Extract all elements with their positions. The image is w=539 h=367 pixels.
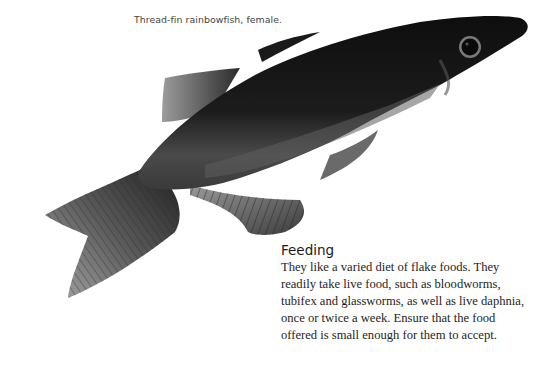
body-line: readily take live food, such as bloodwor… [281, 276, 531, 293]
body-line: once or twice a week. Ensure that the fo… [281, 310, 531, 327]
book-page: Thread-fin rainbowfish, female. [0, 0, 539, 367]
section-heading: Feeding [281, 241, 531, 259]
body-line: offered is small enough for them to acce… [281, 327, 531, 344]
feeding-section: Feeding They like a varied diet of flake… [281, 241, 531, 344]
body-line: tubifex and glassworms, as well as live … [281, 293, 531, 310]
body-line: They like a varied diet of flake foods. … [281, 259, 531, 276]
